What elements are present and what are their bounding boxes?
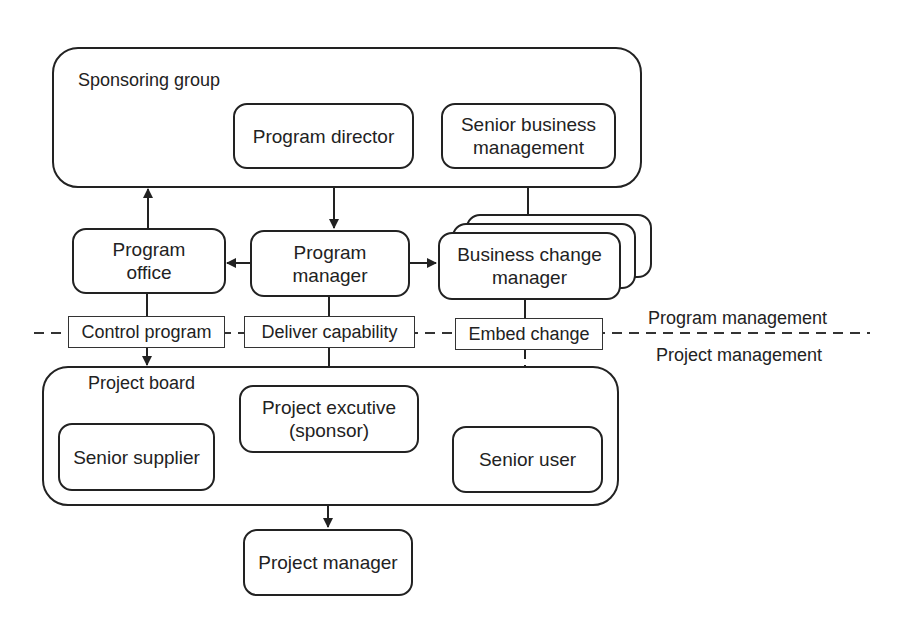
program-director-label: Program director [253,125,395,148]
project-board-label: Project board [88,373,195,394]
business-change-manager-node: Business changemanager [438,232,621,300]
program-office-node: Programoffice [72,228,226,294]
senior-business-management-node: Senior businessmanagement [441,103,616,169]
program-office-label-line1: Program [113,239,186,260]
project-manager-node: Project manager [243,529,413,596]
embed-change-tag: Embed change [455,318,603,350]
program-manager-label-line2: manager [293,265,368,286]
project-manager-label: Project manager [258,551,397,574]
control-program-tag: Control program [68,316,225,348]
project-management-label: Project management [656,345,822,366]
program-office-label-line2: office [126,262,171,283]
senior-business-management-label-line1: Senior business [461,114,596,135]
project-executive-label-line1: Project excutive [262,397,396,418]
program-management-label: Program management [648,308,827,329]
senior-user-label: Senior user [479,448,576,471]
business-change-manager-label-line1: Business change [457,244,602,265]
program-director-node: Program director [233,103,414,169]
senior-business-management-label-line2: management [473,137,584,158]
business-change-manager-label-line2: manager [492,267,567,288]
sponsoring-group-label: Sponsoring group [78,70,220,91]
senior-supplier-label: Senior supplier [73,446,200,469]
project-executive-label-line2: (sponsor) [289,420,369,441]
senior-user-node: Senior user [452,426,603,493]
program-manager-label-line1: Program [294,242,367,263]
project-executive-node: Project excutive(sponsor) [239,385,419,453]
senior-supplier-node: Senior supplier [58,423,215,491]
program-manager-node: Programmanager [250,230,410,297]
deliver-capability-tag: Deliver capability [244,316,415,348]
